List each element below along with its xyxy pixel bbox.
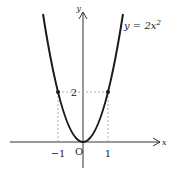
origin-label: O <box>75 146 83 157</box>
y-axis-label: y <box>75 4 81 13</box>
tick-label-pos1: 1 <box>105 148 111 159</box>
tick-label-neg1: −1 <box>51 148 66 159</box>
x-axis-label: x <box>162 138 167 147</box>
curve-label: y = 2x2 <box>123 19 161 31</box>
point-1-2 <box>106 90 110 94</box>
tick-label-y2: 2 <box>71 87 77 98</box>
parabola-chart: y x O −1 1 2 y = 2x2 <box>0 0 170 174</box>
point-neg1-2 <box>56 90 60 94</box>
